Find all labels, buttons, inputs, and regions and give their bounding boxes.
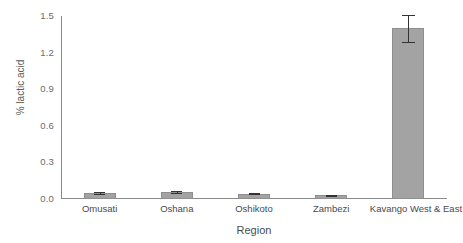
y-tick-label: 0.9: [0, 84, 54, 94]
error-bar-cap-bottom: [94, 194, 105, 195]
x-category-label: Oshikoto: [215, 203, 292, 215]
error-bar-cap-top: [171, 191, 182, 192]
y-tick-label: 1.5: [0, 11, 54, 21]
y-tick-label-text: 0.0: [0, 194, 54, 204]
x-axis-title: Region: [61, 224, 447, 236]
y-tick-label-text: 1.2: [0, 48, 54, 58]
error-bar-cap-bottom: [171, 193, 182, 194]
y-tick-label-text: 0.3: [0, 157, 54, 167]
error-bar-cap-bottom: [249, 194, 260, 195]
error-bar-cap-top: [94, 192, 105, 193]
error-bar-line: [408, 15, 409, 42]
x-category-label: Omusati: [61, 203, 138, 215]
error-bar-cap-bottom: [402, 42, 415, 43]
y-tick-label: 0.6: [0, 121, 54, 131]
bar-chart: 0.00.30.60.91.21.5 % lactic acid Region …: [0, 0, 463, 243]
y-tick-label-text: 1.5: [0, 11, 54, 21]
plot-area: [61, 16, 447, 199]
y-tick-label: 0.3: [0, 157, 54, 167]
y-tick-label-text: 0.6: [0, 121, 54, 131]
x-category-label: Zambezi: [293, 203, 370, 215]
x-category-label: Kavango West & East: [370, 203, 447, 215]
y-tick-label: 0.0: [0, 194, 54, 204]
y-axis-title: % lactic acid: [15, 38, 26, 138]
y-tick-label: 1.2: [0, 48, 54, 58]
y-tick-label-text: 0.9: [0, 84, 54, 94]
x-category-label: Oshana: [138, 203, 215, 215]
bar[interactable]: [392, 28, 424, 199]
error-bar-cap-top: [402, 15, 415, 16]
error-bar-cap-bottom: [326, 196, 337, 197]
